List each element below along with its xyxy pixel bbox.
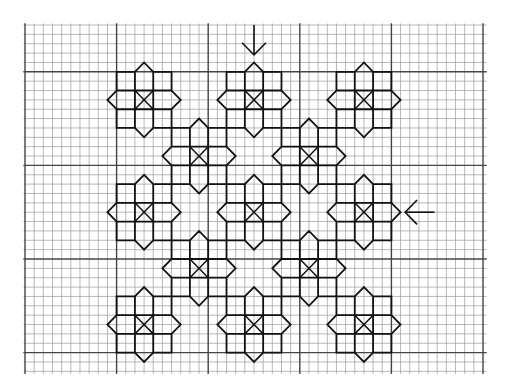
pattern-chart [0, 0, 516, 392]
